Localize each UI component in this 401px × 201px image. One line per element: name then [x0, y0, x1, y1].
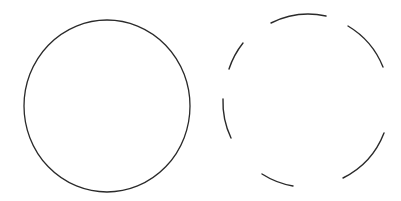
dashed-circle-shape [223, 14, 384, 186]
figure-canvas [0, 0, 401, 201]
dash-segment [343, 133, 384, 178]
solid-circle-shape [24, 20, 190, 192]
dash-segment [271, 14, 326, 23]
dash-segment [229, 43, 243, 69]
dash-segment [348, 26, 383, 67]
dash-segment [223, 99, 231, 138]
dash-segment [262, 174, 293, 186]
circles-diagram [0, 0, 401, 201]
